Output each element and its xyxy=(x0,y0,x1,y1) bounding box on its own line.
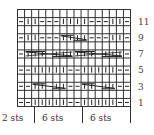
knitting-chart-grid xyxy=(17,9,130,106)
row-number-9: 9 xyxy=(138,34,144,43)
stitch-label-edge: 2 sts xyxy=(2,113,23,123)
label-separator xyxy=(34,106,35,123)
row-number-1: 1 xyxy=(138,99,144,108)
label-separator xyxy=(82,106,83,123)
chart-svg xyxy=(17,9,131,107)
cable-cross-symbol xyxy=(33,84,66,88)
label-separator xyxy=(130,106,131,123)
row-number-11: 11 xyxy=(138,18,149,27)
row-number-3: 3 xyxy=(138,83,144,92)
row-number-7: 7 xyxy=(138,50,144,59)
row-number-5: 5 xyxy=(138,66,144,75)
cable-cross-symbol xyxy=(82,84,115,88)
stitch-label-repeat-1: 6 sts xyxy=(42,113,63,123)
stitch-label-repeat-2: 6 sts xyxy=(90,113,111,123)
